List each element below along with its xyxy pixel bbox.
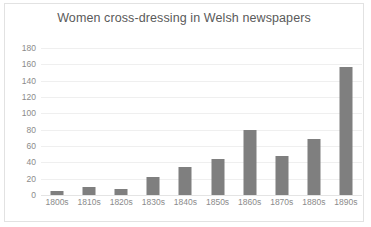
y-axis-tick-label: 40 (27, 158, 36, 167)
bar-1880s[interactable] (307, 139, 320, 195)
bar-1860s[interactable] (243, 130, 256, 195)
y-axis-tick-label: 160 (22, 60, 36, 69)
bar-slot (137, 48, 169, 195)
bar-slot (105, 48, 137, 195)
bar-1890s[interactable] (339, 67, 352, 195)
y-axis-tick-label: 80 (27, 125, 36, 134)
bar-1810s[interactable] (83, 187, 96, 195)
bar-1800s[interactable] (51, 191, 64, 195)
bar-slot (169, 48, 201, 195)
bar-slot (298, 48, 330, 195)
bar-slot (266, 48, 298, 195)
y-axis-tick-label: 0 (31, 191, 36, 200)
y-axis-tick-label: 60 (27, 142, 36, 151)
x-axis-tick-label: 1830s (142, 198, 165, 207)
gridline (41, 195, 362, 196)
y-axis: 020406080100120140160180 (5, 48, 39, 195)
bar-slot (234, 48, 266, 195)
bar-1830s[interactable] (147, 177, 160, 195)
y-axis-tick-label: 180 (22, 44, 36, 53)
x-axis-tick-label: 1850s (206, 198, 229, 207)
bar-series (41, 48, 362, 195)
bar-1820s[interactable] (115, 189, 128, 195)
y-axis-tick-label: 100 (22, 109, 36, 118)
chart-title: Women cross-dressing in Welsh newspapers (5, 11, 363, 25)
x-axis-tick-label: 1820s (110, 198, 133, 207)
x-axis-tick-label: 1890s (334, 198, 357, 207)
x-axis-tick-label: 1810s (78, 198, 101, 207)
x-axis-tick-label: 1860s (238, 198, 261, 207)
x-axis-tick-label: 1880s (302, 198, 325, 207)
x-axis-tick-label: 1840s (174, 198, 197, 207)
x-axis-tick-label: 1870s (270, 198, 293, 207)
bar-slot (202, 48, 234, 195)
bar-slot (41, 48, 73, 195)
bar-1850s[interactable] (211, 159, 224, 195)
x-axis: 1800s1810s1820s1830s1840s1850s1860s1870s… (41, 198, 362, 214)
chart-container: Women cross-dressing in Welsh newspapers… (4, 3, 364, 222)
y-axis-tick-label: 120 (22, 93, 36, 102)
bar-1870s[interactable] (275, 156, 288, 195)
bar-slot (330, 48, 362, 195)
bar-1840s[interactable] (179, 167, 192, 195)
x-axis-tick-label: 1800s (45, 198, 68, 207)
y-axis-tick-label: 140 (22, 76, 36, 85)
plot-area (41, 48, 362, 195)
y-axis-tick-label: 20 (27, 174, 36, 183)
bar-slot (73, 48, 105, 195)
